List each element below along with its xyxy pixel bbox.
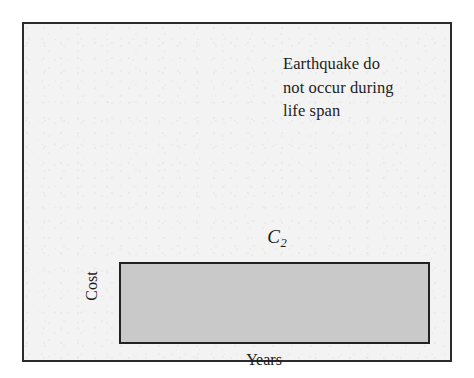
cost-bar <box>119 262 430 344</box>
bar-series-label-subscript: 2 <box>280 236 286 250</box>
x-axis-title: Years <box>184 352 344 368</box>
bar-series-label: C2 <box>237 227 317 250</box>
annotation-line-1: Earthquake do <box>283 52 463 76</box>
figure-frame: Earthquake do not occur during life span… <box>22 22 452 362</box>
annotation-text: Earthquake do not occur during life span <box>283 52 463 123</box>
bar-series-label-base: C <box>267 226 280 247</box>
earthquake-cost-figure: Earthquake do not occur during life span… <box>0 0 474 378</box>
annotation-line-3: life span <box>283 99 463 123</box>
y-axis-title: Cost <box>84 256 100 316</box>
annotation-line-2: not occur during <box>283 76 463 100</box>
